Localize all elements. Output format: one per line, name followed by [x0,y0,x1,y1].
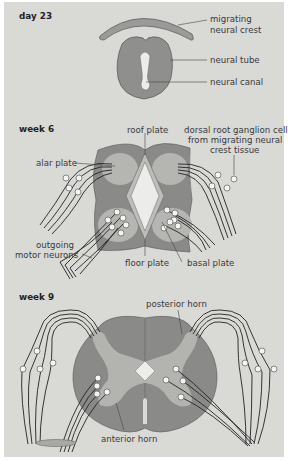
label-roof-plate: roof plate [127,125,168,135]
week6-section: week 6 [15,124,288,279]
label-drg-1: dorsal root ganglion cell [184,125,288,135]
label-drg-2: from migrating neural [188,135,283,145]
week9-title: week 9 [19,292,54,302]
label-floor-plate: floor plate [125,258,169,268]
day23-section: day 23 migrating neural crest neural tub… [19,11,263,99]
week6-right-ganglion [209,172,237,191]
label-basal-plate: basal plate [187,258,234,268]
alar-plate-right [152,153,188,185]
week6-title: week 6 [19,124,54,134]
label-outgoing: outgoing [36,240,74,250]
neural-development-diagram: day 23 migrating neural crest neural tub… [0,0,288,461]
label-neural-crest: neural crest [210,25,262,35]
label-neural-canal: neural canal [210,77,263,87]
label-drg-3: crest tissue [210,145,259,155]
label-neural-tube: neural tube [210,55,260,65]
alar-plate-left [102,153,138,185]
neural-crest-shape [100,18,194,40]
label-migrating: migrating [210,14,252,24]
week9-section: week 9 [19,292,277,452]
day23-title: day 23 [19,11,52,21]
label-posterior-horn: posterior horn [146,299,207,309]
label-alar-plate: alar plate [36,158,77,168]
label-anterior-horn: anterior horn [101,434,157,444]
week6-left-ganglion [63,175,82,195]
week9-nerve-oval [36,440,76,447]
label-motor-neurons: motor neurons [15,250,79,260]
